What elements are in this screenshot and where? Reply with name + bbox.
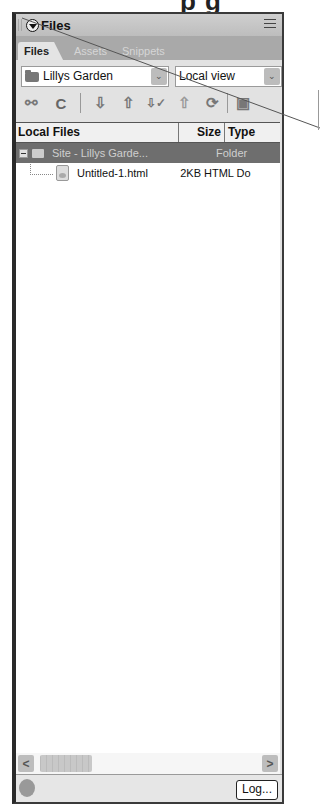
refresh-icon[interactable]: C: [50, 92, 72, 114]
horizontal-scrollbar[interactable]: < >: [16, 753, 280, 775]
site-select[interactable]: Lillys Garden ⌄: [21, 66, 169, 87]
list-item-file[interactable]: Untitled-1.html 2KB HTML Do: [16, 163, 280, 183]
check-in-icon[interactable]: ⇧: [173, 92, 195, 114]
check-out-icon[interactable]: ⇩✓: [145, 92, 167, 114]
list-header: Local Files Size Type: [16, 123, 280, 143]
folder-icon: [25, 72, 39, 82]
tab-files[interactable]: Files: [18, 42, 63, 60]
file-toolbar: ⚯ C ⇩ ⇧ ⇩✓ ⇧ ⟳ ▣: [16, 90, 282, 116]
panel-body: Lillys Garden ⌄ Local view ⌄ ⚯ C ⇩ ⇧ ⇩✓ …: [16, 60, 282, 802]
grip-icon[interactable]: [18, 19, 24, 31]
scrollbar-thumb[interactable]: [40, 755, 92, 772]
collapse-arrow-icon[interactable]: [26, 19, 39, 32]
scroll-right-button[interactable]: >: [262, 755, 278, 772]
options-menu-icon[interactable]: [264, 19, 276, 30]
html-file-icon: [56, 165, 69, 181]
toolbar-divider: [227, 93, 228, 113]
connection-status-icon[interactable]: [19, 779, 35, 797]
file-type: Folder: [210, 147, 247, 159]
folder-icon: [32, 149, 44, 158]
file-size: 2KB: [175, 167, 201, 179]
collapse-tree-icon[interactable]: [19, 149, 28, 158]
file-name: Site - Lillys Garde...: [52, 147, 182, 159]
scroll-left-button[interactable]: <: [18, 755, 34, 772]
toolbar-divider: [80, 93, 81, 113]
log-button[interactable]: Log...: [236, 780, 278, 800]
get-files-icon[interactable]: ⇩: [89, 92, 111, 114]
tab-snippets[interactable]: Snippets: [116, 42, 171, 60]
column-header-local-files[interactable]: Local Files: [16, 123, 179, 142]
view-select[interactable]: Local view ⌄: [175, 66, 282, 87]
callout-bracket: [318, 90, 319, 130]
files-panel: Files Files Assets Snippets Lillys Garde…: [12, 12, 284, 804]
chevron-down-icon[interactable]: ⌄: [264, 68, 280, 85]
panel-tabs: Files Assets Snippets: [16, 36, 282, 60]
file-type: HTML Do: [201, 167, 251, 179]
status-bar: Log...: [16, 774, 282, 802]
tab-assets[interactable]: Assets: [68, 42, 113, 60]
panel-titlebar[interactable]: Files: [16, 14, 282, 36]
file-list: Local Files Size Type Site - Lillys Gard…: [16, 122, 280, 775]
synchronize-icon[interactable]: ⟳: [201, 92, 223, 114]
file-name: Untitled-1.html: [77, 167, 175, 179]
chevron-down-icon[interactable]: ⌄: [151, 68, 167, 85]
list-item-site-folder[interactable]: Site - Lillys Garde... Folder: [16, 143, 280, 163]
connect-icon[interactable]: ⚯: [20, 92, 42, 114]
expand-view-icon[interactable]: ▣: [232, 92, 254, 114]
panel-title: Files: [41, 18, 71, 33]
column-header-type[interactable]: Type: [225, 123, 255, 142]
tree-connector: [30, 164, 53, 175]
site-select-value: Lillys Garden: [43, 67, 113, 86]
column-header-size[interactable]: Size: [179, 123, 225, 142]
view-select-value: Local view: [179, 67, 235, 86]
put-files-icon[interactable]: ⇧: [117, 92, 139, 114]
